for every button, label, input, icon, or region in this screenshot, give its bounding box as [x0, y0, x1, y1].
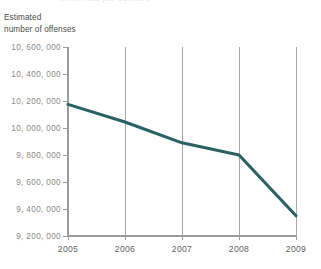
y-tick-label: 10, 600, 000 [11, 43, 61, 52]
x-tick-label-2007: 2007 [172, 244, 192, 254]
x-tick-label-2006: 2006 [115, 244, 135, 254]
y-tick-label: 10, 200, 000 [11, 97, 61, 106]
y-tick-label: 9, 400, 000 [16, 205, 61, 214]
gridlines-group [125, 47, 296, 236]
x-tick-label-2008: 2008 [229, 244, 249, 254]
x-tick-label-2009: 2009 [286, 244, 306, 254]
chart-container: crime rate per 100,000 Estimated number … [0, 0, 321, 269]
y-tick-label: 10, 400, 000 [11, 70, 61, 79]
y-tick-label: 9, 600, 000 [16, 178, 61, 187]
line-chart-plot [0, 0, 321, 269]
y-tick-label: 10, 000, 000 [11, 124, 61, 133]
x-tick-label-2005: 2005 [58, 244, 78, 254]
y-tick-label: 9, 200, 000 [16, 232, 61, 241]
y-tick-marks-group [63, 47, 68, 236]
y-tick-label: 9, 800, 000 [16, 151, 61, 160]
